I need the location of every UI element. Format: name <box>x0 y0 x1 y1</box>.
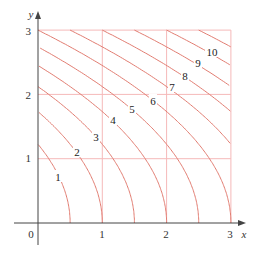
level-curve-1 <box>38 145 70 223</box>
contour-plot: 0 1 2 3 1 2 3 x y 12345678910 <box>0 0 264 256</box>
level-label-4: 4 <box>110 114 116 126</box>
level-curve-2 <box>39 112 102 223</box>
y-axis-arrow-icon <box>35 11 41 19</box>
level-label-1: 1 <box>55 171 61 183</box>
x-tick-3: 3 <box>227 228 233 240</box>
x-axis-label: x <box>241 228 247 240</box>
x-tick-1: 1 <box>99 228 105 240</box>
level-label-2: 2 <box>74 146 80 158</box>
level-label-3: 3 <box>93 131 99 143</box>
y-axis-label: y <box>28 8 34 20</box>
level-curve-5 <box>40 48 199 223</box>
level-label-7: 7 <box>169 81 175 93</box>
level-label-10: 10 <box>207 46 219 58</box>
y-tick-2: 2 <box>26 89 32 101</box>
level-label-5: 5 <box>129 103 135 115</box>
y-tick-1: 1 <box>26 152 32 164</box>
y-tick-3: 3 <box>26 25 32 37</box>
x-axis-arrow-icon <box>238 220 246 226</box>
tick-labels: 0 1 2 3 1 2 3 x y <box>26 8 247 240</box>
level-label-9: 9 <box>195 57 201 69</box>
x-tick-2: 2 <box>163 228 169 240</box>
origin-label: 0 <box>28 228 34 240</box>
level-curve-3 <box>38 87 134 223</box>
level-label-6: 6 <box>150 95 156 107</box>
level-label-8: 8 <box>182 70 188 82</box>
level-curve-11 <box>199 30 231 47</box>
